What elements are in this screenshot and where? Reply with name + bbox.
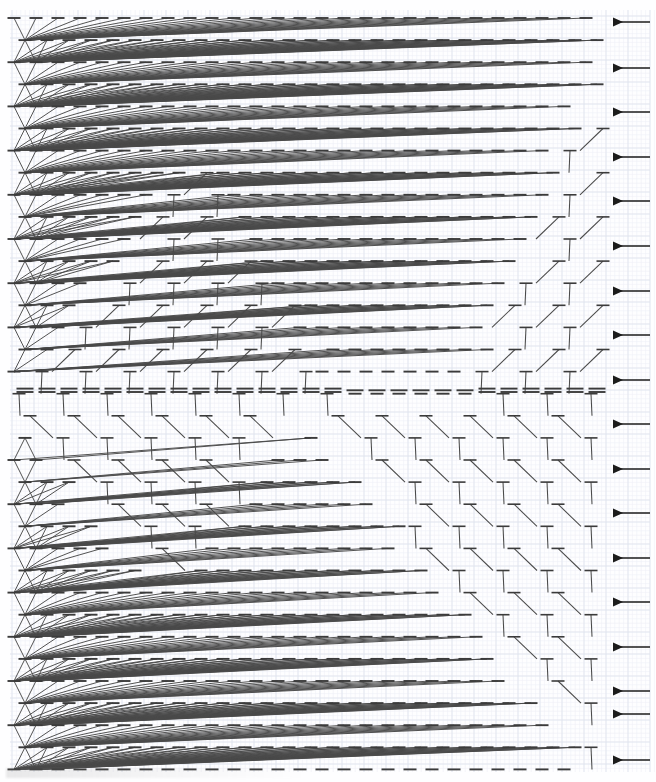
page-scan-smudge <box>6 768 306 778</box>
row-marker-arrow-column[interactable] <box>0 0 656 782</box>
diagram-canvas: Triangular lattice cable-stitch / Tanner… <box>0 0 656 782</box>
